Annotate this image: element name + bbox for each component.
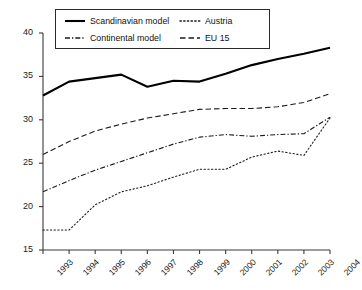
legend: Scandinavian model Austria Continental m… — [55, 9, 270, 49]
legend-swatch-dotted-icon — [179, 17, 201, 25]
legend-swatch-solid-icon — [64, 17, 86, 25]
y-tick-label: 30 — [15, 114, 33, 124]
legend-item-continental-model: Continental model — [64, 34, 161, 43]
legend-item-austria: Austria — [179, 17, 232, 26]
data-series-group — [43, 48, 330, 230]
y-tick-label: 40 — [15, 27, 33, 37]
series-line-eu-15 — [43, 94, 330, 155]
legend-item-scandinavian-model: Scandinavian model — [64, 17, 169, 26]
y-tick-marks — [39, 33, 43, 250]
legend-label-eu-15: EU 15 — [205, 34, 229, 43]
legend-label-scandinavian-model: Scandinavian model — [90, 17, 169, 26]
x-tick-marks — [43, 250, 330, 254]
legend-label-continental-model: Continental model — [90, 34, 161, 43]
legend-item-eu-15: EU 15 — [179, 34, 229, 43]
legend-swatch-dashed-icon — [179, 34, 201, 42]
y-tick-label: 25 — [15, 157, 33, 167]
series-line-scandinavian-model — [43, 48, 330, 96]
legend-swatch-dashdot-icon — [64, 34, 86, 42]
x-tick-label: 2004 — [342, 257, 362, 277]
y-tick-label: 20 — [15, 201, 33, 211]
y-tick-label: 35 — [15, 70, 33, 80]
legend-label-austria: Austria — [205, 17, 232, 26]
y-tick-label: 15 — [15, 244, 33, 254]
axes — [43, 33, 330, 250]
series-line-continental-model — [43, 117, 330, 192]
